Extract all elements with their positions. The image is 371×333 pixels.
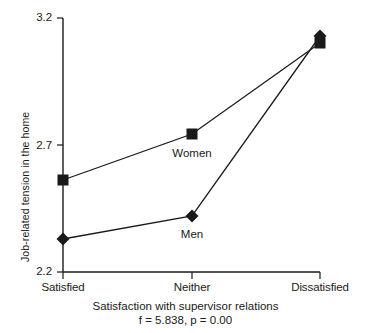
data-point-women-satisfied (58, 175, 69, 186)
series-annotation-women: Women (152, 147, 232, 159)
series-line-women (63, 43, 320, 180)
data-point-men-neither (186, 210, 199, 223)
x-tick-label-neither: Neither (152, 281, 232, 293)
x-axis-stats: f = 5.838, p = 0.00 (0, 314, 371, 326)
x-tick-label-dissatisfied: Dissatisfied (277, 281, 363, 293)
x-axis-title: Satisfaction with supervisor relations (0, 300, 371, 312)
chart-container: Job-related tension in the home 3.2 2.7 … (0, 0, 371, 333)
x-tick-label-satisfied: Satisfied (23, 281, 103, 293)
data-point-women-neither (187, 129, 198, 140)
series-annotation-men: Men (152, 228, 232, 240)
data-point-men-satisfied (57, 233, 70, 246)
